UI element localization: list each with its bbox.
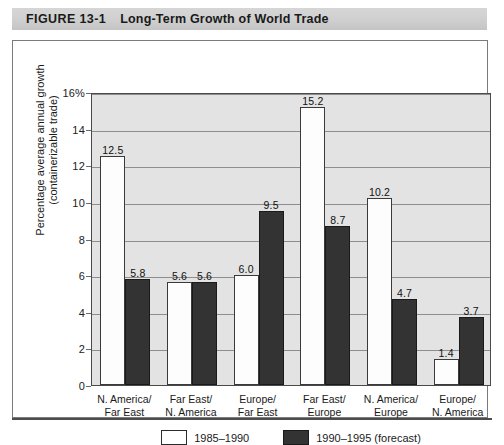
gridline	[92, 241, 490, 242]
x-axis-category-line-1: Far East/	[165, 393, 216, 406]
y-axis-tick-label: 6	[45, 270, 85, 282]
bar-value-label: 10.2	[369, 186, 390, 198]
x-axis-category-line-1: N. America/	[364, 393, 418, 406]
bar	[125, 279, 150, 385]
bar	[325, 226, 350, 385]
y-axis-tick-label: 16%	[45, 87, 85, 99]
y-axis-tick	[86, 386, 91, 387]
x-axis-category-line-2: Far East	[97, 406, 151, 419]
bar	[367, 198, 392, 385]
y-axis-tick-label: 0	[45, 380, 85, 392]
x-axis-category-line-1: Europe/	[238, 393, 278, 406]
x-axis-category-label: N. America/Europe	[364, 393, 418, 418]
x-axis-category-label: Europe/N. America	[432, 393, 483, 418]
x-axis-category-line-1: Europe/	[432, 393, 483, 406]
bar	[459, 317, 484, 385]
bar	[192, 282, 217, 385]
legend-label: 1985–1990	[194, 432, 249, 444]
legend-label: 1990–1995 (forecast)	[316, 432, 421, 444]
x-axis-category-label: Far East/Europe	[303, 393, 346, 418]
legend-swatch-dark	[283, 430, 309, 445]
gridline	[92, 167, 490, 168]
bar-value-label: 15.2	[302, 95, 323, 107]
bar	[434, 359, 459, 385]
y-axis-tick-label: 14	[45, 124, 85, 136]
bar	[100, 156, 125, 385]
legend-item: 1990–1995 (forecast)	[283, 430, 421, 445]
y-axis-tick-label: 12	[45, 160, 85, 172]
bar-value-label: 5.6	[197, 270, 212, 282]
x-axis-category-line-2: Europe	[364, 406, 418, 419]
bar	[300, 107, 325, 385]
bar	[259, 211, 284, 385]
x-axis-category-line-2: N. America	[165, 406, 216, 419]
bar-value-label: 8.7	[330, 214, 345, 226]
gridline	[92, 131, 490, 132]
bar-value-label: 5.8	[130, 267, 145, 279]
bottom-divider	[12, 418, 492, 420]
gridline	[92, 314, 490, 315]
y-axis-tick-label: 10	[45, 197, 85, 209]
figure-number: FIGURE 13-1	[26, 12, 106, 26]
figure-title: Long-Term Growth of World Trade	[120, 12, 329, 26]
gridline	[92, 94, 490, 95]
bar	[392, 299, 417, 385]
x-axis-category-label: Europe/Far East	[238, 393, 278, 418]
x-axis-category-line-2: Europe	[303, 406, 346, 419]
bar-value-label: 1.4	[439, 347, 454, 359]
bar-value-label: 5.6	[172, 270, 187, 282]
chart-frame: Percentage average annual growth (contai…	[12, 40, 488, 418]
bar-value-label: 3.7	[464, 305, 479, 317]
x-axis-category-label: N. America/Far East	[97, 393, 151, 418]
y-axis-labels: 0246810121416%	[13, 41, 85, 419]
y-axis-tick-label: 4	[45, 307, 85, 319]
x-axis-category-line-1: N. America/	[97, 393, 151, 406]
bar-value-label: 6.0	[239, 263, 254, 275]
bar-value-label: 4.7	[397, 287, 412, 299]
bar-value-label: 12.5	[102, 144, 123, 156]
legend-item: 1985–1990	[161, 430, 249, 445]
bar	[234, 275, 259, 385]
y-axis-tick-label: 2	[45, 343, 85, 355]
x-axis-category-line-1: Far East/	[303, 393, 346, 406]
figure-title-banner: FIGURE 13-1 Long-Term Growth of World Tr…	[12, 8, 487, 30]
gridline	[92, 277, 490, 278]
chart-legend: 1985–19901990–1995 (forecast)	[91, 430, 491, 445]
gridline	[92, 204, 490, 205]
x-axis-category-line-2: Far East	[238, 406, 278, 419]
plot-area: 12.55.85.65.66.09.515.28.710.24.71.43.7	[91, 93, 491, 386]
x-axis-category-line-2: N. America	[432, 406, 483, 419]
x-axis-category-label: Far East/N. America	[165, 393, 216, 418]
bar	[167, 282, 192, 385]
bar-value-label: 9.5	[264, 199, 279, 211]
gridline	[92, 350, 490, 351]
y-axis-tick-label: 8	[45, 234, 85, 246]
legend-swatch-light	[161, 430, 187, 445]
